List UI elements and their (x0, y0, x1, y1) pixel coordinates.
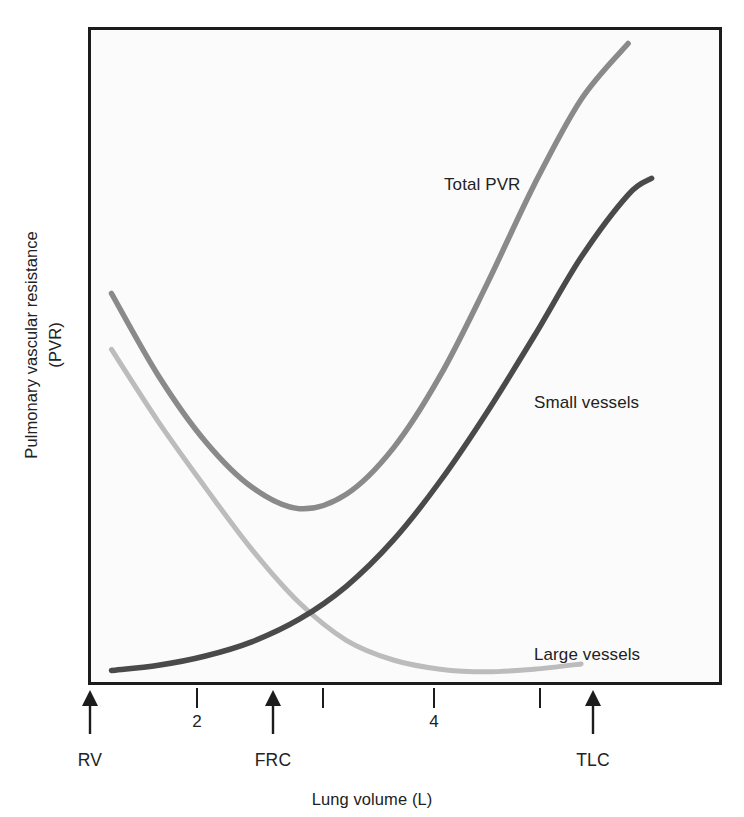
x-tick-label-4: 4 (414, 712, 454, 732)
pvr-lung-volume-figure: Pulmonary vascular resistance (PVR) Tota… (0, 0, 744, 817)
y-axis-label-line2: (PVR) (44, 231, 68, 459)
tlc-arrow-icon (584, 690, 602, 734)
x-tick-5 (539, 688, 541, 708)
chart-curves (88, 27, 722, 685)
x-marker-label-frc: FRC (238, 750, 308, 771)
x-tick-label-2: 2 (177, 712, 217, 732)
x-tick-3 (322, 688, 324, 708)
y-axis-label-line1: Pulmonary vascular resistance (22, 231, 40, 459)
x-tick-4 (433, 688, 435, 708)
frc-arrow-icon (264, 690, 282, 734)
x-marker-label-rv: RV (55, 750, 125, 771)
curve-label-large-vessels: Large vessels (534, 645, 640, 665)
curve-label-total-pvr: Total PVR (444, 175, 521, 195)
x-axis-label: Lung volume (L) (0, 790, 744, 809)
rv-arrow-icon (81, 690, 99, 734)
curve-total-pvr (112, 44, 629, 509)
x-marker-label-tlc: TLC (558, 750, 628, 771)
y-axis-label: Pulmonary vascular resistance (PVR) (0, 0, 88, 690)
curve-label-small-vessels: Small vessels (534, 393, 639, 413)
x-tick-2 (196, 688, 198, 708)
curve-large-vessels (112, 349, 582, 671)
